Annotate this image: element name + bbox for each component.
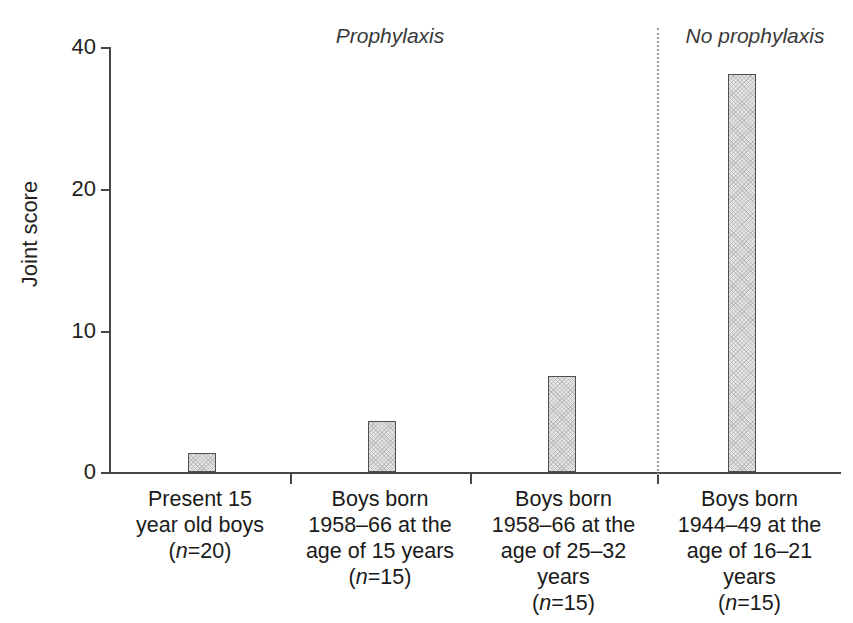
y-tick-10 <box>101 331 110 333</box>
sample-size-n-symbol: n <box>176 539 188 563</box>
bar-boys-born-1958-66-age-15[interactable] <box>368 421 396 472</box>
x-axis-line <box>109 472 841 474</box>
group-divider-dotted-line <box>657 28 659 475</box>
y-tick-40 <box>101 47 110 49</box>
x-tick-separator-2 <box>470 473 472 484</box>
bar-chart-figure: Joint score 40 20 10 0 Prophylaxis No pr… <box>0 0 853 623</box>
y-tick-label-0: 0 <box>50 461 96 483</box>
category-label-1-line-3: (n=15) <box>290 564 470 590</box>
category-label-3: Boys born1944–49 at theage of 16–21years… <box>657 486 842 616</box>
category-label-2-line-3: years <box>470 564 657 590</box>
category-label-3-line-4: (n=15) <box>657 590 842 616</box>
y-tick-label-20: 20 <box>50 178 96 200</box>
category-label-0-line-1: year old boys <box>110 512 290 538</box>
y-axis-title: Joint score <box>18 134 42 334</box>
category-label-2: Boys born1958–66 at theage of 25–32years… <box>470 486 657 616</box>
group-label-prophylaxis: Prophylaxis <box>300 24 480 48</box>
y-axis-line <box>109 47 111 474</box>
y-tick-20 <box>101 189 110 191</box>
y-tick-0 <box>101 472 110 474</box>
group-label-no-prophylaxis: No prophylaxis <box>660 24 850 48</box>
x-tick-separator-1 <box>290 473 292 484</box>
sample-size-n-symbol: n <box>356 565 368 589</box>
bar-boys-born-1958-66-age-25-32[interactable] <box>548 376 576 472</box>
category-label-1-line-1: 1958–66 at the <box>290 512 470 538</box>
category-label-2-line-2: age of 25–32 <box>470 538 657 564</box>
category-label-0: Present 15year old boys(n=20) <box>110 486 290 564</box>
category-label-2-line-1: 1958–66 at the <box>470 512 657 538</box>
category-label-3-line-0: Boys born <box>657 486 842 512</box>
category-label-1: Boys born1958–66 at theage of 15 years(n… <box>290 486 470 590</box>
y-tick-label-10: 10 <box>50 320 96 342</box>
bar-present-15-year-old-boys[interactable] <box>188 453 216 472</box>
category-label-0-line-0: Present 15 <box>110 486 290 512</box>
y-tick-label-40: 40 <box>50 36 96 58</box>
category-label-3-line-1: 1944–49 at the <box>657 512 842 538</box>
bar-boys-born-1944-49-age-16-21[interactable] <box>728 74 756 472</box>
category-label-3-line-3: years <box>657 564 842 590</box>
category-label-0-line-2: (n=20) <box>110 538 290 564</box>
category-label-1-line-2: age of 15 years <box>290 538 470 564</box>
sample-size-n-symbol: n <box>725 591 737 615</box>
category-label-1-line-0: Boys born <box>290 486 470 512</box>
category-label-3-line-2: age of 16–21 <box>657 538 842 564</box>
category-label-2-line-0: Boys born <box>470 486 657 512</box>
sample-size-n-symbol: n <box>539 591 551 615</box>
category-label-2-line-4: (n=15) <box>470 590 657 616</box>
